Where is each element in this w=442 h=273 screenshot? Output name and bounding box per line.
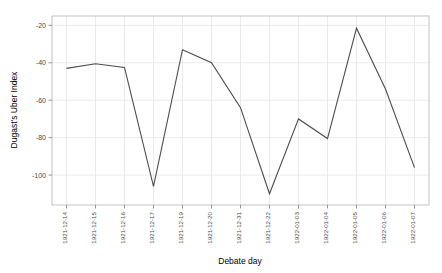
y-tick-label: -20: [36, 22, 46, 29]
x-tick-label: 1921-12-17: [148, 211, 155, 243]
chart-container: -20-40-60-80-100 1921-12-141921-12-15192…: [0, 0, 442, 273]
x-tick-label: 1922-01-06: [380, 211, 387, 243]
x-tick-label: 1921-12-31: [235, 211, 242, 243]
x-tick-label: 1921-12-20: [206, 211, 213, 243]
y-tick-label: -60: [36, 97, 46, 104]
y-tick-label: -40: [36, 59, 46, 66]
x-tick-label: 1921-12-22: [264, 211, 271, 243]
y-tick-label: -80: [36, 134, 46, 141]
x-tick-label: 1922-01-07: [409, 211, 416, 243]
x-tick-label: 1921-12-14: [61, 211, 68, 243]
x-tick-label: 1922-01-03: [293, 211, 300, 243]
y-axis-title: Dugast's Uber Index: [9, 71, 19, 148]
x-tick-label: 1921-12-19: [177, 211, 184, 243]
x-tick-label: 1922-01-05: [351, 211, 358, 243]
x-tick-label: 1922-01-04: [322, 211, 329, 243]
line-chart: -20-40-60-80-100 1921-12-141921-12-15192…: [0, 0, 442, 273]
x-axis-title: Debate day: [218, 256, 262, 266]
x-tick-label: 1921-12-16: [119, 211, 126, 243]
x-tick-label: 1921-12-15: [90, 211, 97, 243]
y-tick-label: -100: [32, 172, 46, 179]
